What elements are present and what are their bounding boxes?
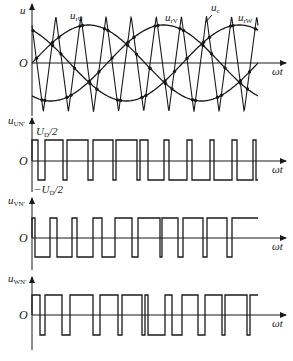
plot-u-WN: uWN' O ωt	[8, 272, 286, 350]
label-u-rW: urW	[238, 11, 253, 25]
intersection-dot	[170, 87, 173, 90]
intersection-dot	[185, 57, 188, 60]
label-u-c: uc	[211, 1, 220, 15]
label-u-rV: urV	[165, 11, 178, 25]
intersection-dot	[153, 24, 156, 27]
un-x-axis-label: ωt	[272, 163, 284, 175]
intersection-dot	[182, 29, 185, 32]
label-u-rU: urU	[70, 9, 83, 23]
intersection-dot	[59, 52, 62, 55]
vn-x-axis-label: ωt	[272, 240, 284, 252]
intersection-dot	[173, 70, 176, 73]
wn-y-axis-label: uWN'	[8, 272, 26, 286]
top-x-axis-label: ωt	[272, 65, 284, 77]
top-y-axis-label: u	[20, 4, 26, 16]
un-high-level-label: UD/2	[36, 125, 58, 139]
intersection-dot	[119, 99, 122, 102]
intersection-dot	[110, 56, 113, 59]
top-origin-label: O	[19, 56, 28, 70]
intersection-dot	[116, 98, 119, 101]
intersection-dot	[208, 36, 211, 39]
intersection-dot	[246, 87, 249, 90]
intersection-dot	[254, 27, 257, 30]
spwm-waveform-diagram: u O ωt urU urV urW uc uUN' O ωt UD/2	[0, 0, 293, 361]
intersection-dot	[163, 79, 166, 82]
intersection-dot	[31, 29, 34, 32]
intersection-dot	[231, 24, 234, 27]
plot-u-UN: uUN' O ωt UD/2 −UD/2	[8, 114, 286, 197]
intersection-dot	[194, 99, 197, 102]
intersection-dot	[156, 24, 159, 27]
intersection-dot	[65, 96, 68, 99]
plot-u-VN: uVN' O ωt	[8, 194, 286, 270]
vn-y-axis-label: uVN'	[8, 194, 25, 208]
pwm-waveform-u-UN	[32, 140, 258, 180]
intersection-dot	[140, 96, 143, 99]
intersection-dot	[35, 57, 38, 60]
wn-origin-label: O	[19, 308, 28, 322]
intersection-dot	[191, 98, 194, 101]
vn-origin-label: O	[19, 231, 28, 245]
intersection-dot	[103, 27, 106, 30]
intersection-dot	[57, 35, 60, 38]
top-plot-modulation: u O ωt urU urV urW uc	[19, 1, 286, 116]
intersection-dot	[73, 66, 76, 69]
un-y-axis-label: uUN'	[8, 114, 25, 128]
intersection-dot	[95, 88, 98, 91]
intersection-dot	[88, 82, 91, 85]
intersection-dot	[178, 27, 181, 30]
intersection-dot	[201, 44, 204, 47]
intersection-dot	[97, 70, 100, 73]
un-low-level-label: −UD/2	[34, 183, 63, 197]
intersection-dot	[210, 52, 213, 55]
wn-x-axis-label: ωt	[272, 317, 284, 329]
intersection-dot	[51, 44, 54, 47]
intersection-dot	[43, 99, 46, 102]
intersection-dot	[126, 41, 129, 44]
intersection-dot	[216, 96, 219, 99]
intersection-dot	[248, 70, 251, 73]
intersection-dot	[239, 82, 242, 85]
intersection-dot	[220, 94, 223, 97]
intersection-dot	[51, 41, 54, 44]
intersection-dot	[132, 36, 135, 39]
intersection-dot	[69, 94, 72, 97]
intersection-dot	[148, 67, 151, 70]
intersection-dot	[81, 24, 84, 27]
intersection-dot	[144, 94, 147, 97]
intersection-dot	[106, 29, 109, 32]
intersection-dot	[135, 52, 138, 55]
intersection-dot	[202, 41, 205, 44]
un-origin-label: O	[19, 154, 28, 168]
intersection-dot	[223, 66, 226, 69]
intersection-dot	[126, 44, 129, 47]
intersection-dot	[40, 98, 43, 101]
